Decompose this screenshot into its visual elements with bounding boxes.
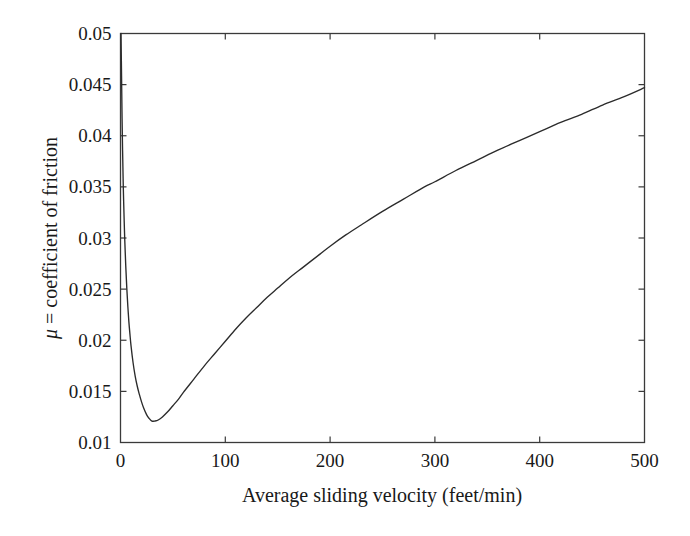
y-tick-label: 0.015 (69, 381, 112, 402)
x-tick-label: 0 (116, 450, 126, 471)
y-tick-label: 0.025 (69, 279, 112, 300)
x-tick-label: 100 (211, 450, 240, 471)
y-axis-title: μ = coefficient of friction (39, 137, 62, 340)
mu-symbol: μ (39, 329, 62, 340)
y-axis-title-group: μ = coefficient of friction (39, 137, 62, 340)
x-tick-label: 500 (630, 450, 659, 471)
y-axis-title-rest: = coefficient of friction (39, 137, 61, 329)
y-tick-label: 0.045 (69, 74, 112, 95)
y-tick-label: 0.035 (69, 176, 112, 197)
y-tick-label: 0.03 (78, 228, 111, 249)
y-tick-label: 0.05 (78, 23, 111, 44)
y-tick-label: 0.01 (78, 432, 111, 453)
x-axis-title: Average sliding velocity (feet/min) (242, 484, 522, 507)
x-tick-label: 200 (316, 450, 345, 471)
chart-canvas: 0100200300400500 0.010.0150.020.0250.030… (0, 0, 690, 536)
friction-curve-figure: 0100200300400500 0.010.0150.020.0250.030… (0, 0, 690, 536)
x-tick-label: 300 (421, 450, 450, 471)
y-tick-label: 0.04 (78, 125, 112, 146)
y-tick-label: 0.02 (78, 330, 111, 351)
x-tick-label: 400 (525, 450, 554, 471)
